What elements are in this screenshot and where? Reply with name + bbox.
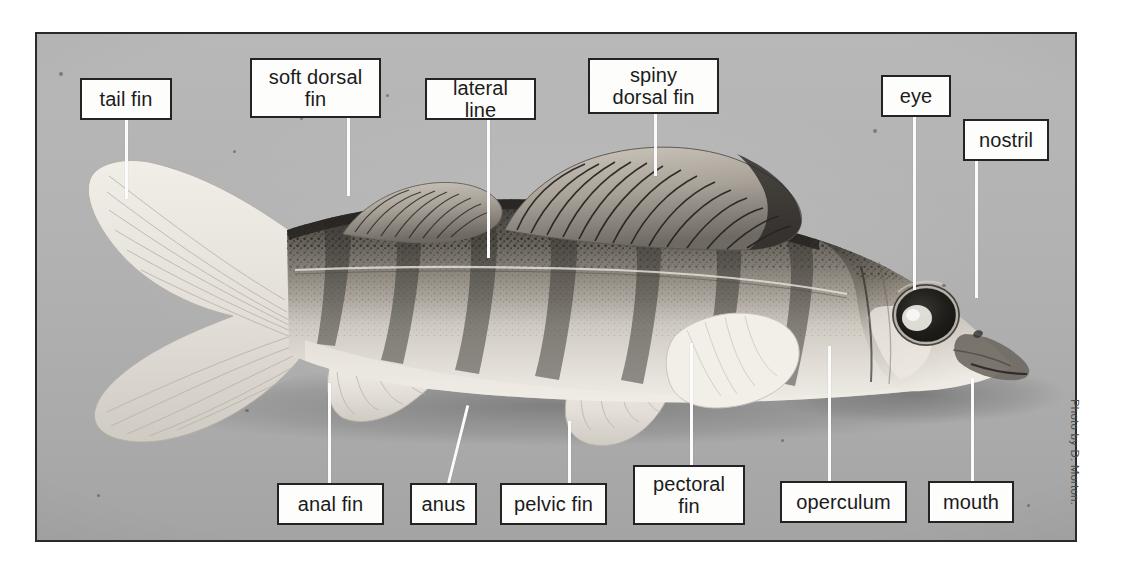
label-tail-fin: tail fin	[80, 78, 172, 120]
fish-anatomy-figure: tail finsoft dorsal finlateral linespiny…	[0, 0, 1128, 565]
label-text: anal fin	[298, 493, 363, 515]
leader-line-operculum	[828, 346, 831, 481]
photo-credit: Photo by D. Morton.	[1069, 399, 1081, 505]
leader-line-pelvic-fin	[568, 421, 571, 483]
label-text: pelvic fin	[514, 493, 593, 515]
label-operculum: operculum	[780, 481, 907, 523]
leader-line-nostril	[975, 161, 978, 298]
leader-line-spiny-dorsal-fin	[654, 114, 657, 176]
label-pectoral-fin: pectoral fin	[633, 465, 745, 525]
label-nostril: nostril	[963, 119, 1049, 161]
leader-line-eye	[913, 117, 916, 290]
label-text: anus	[422, 493, 466, 515]
label-text: soft dorsal fin	[269, 66, 362, 111]
leader-line-lateral-line	[487, 120, 490, 258]
soft-dorsal-fin	[343, 182, 502, 242]
label-eye: eye	[881, 75, 951, 117]
label-text: spiny dorsal fin	[612, 64, 694, 109]
label-text: nostril	[979, 129, 1033, 151]
leader-line-mouth	[971, 378, 974, 481]
label-text: mouth	[943, 491, 999, 513]
label-text: lateral line	[435, 77, 526, 122]
label-pelvic-fin: pelvic fin	[500, 483, 607, 525]
leader-line-anal-fin	[328, 383, 331, 483]
label-mouth: mouth	[928, 481, 1014, 523]
label-anal-fin: anal fin	[277, 483, 384, 525]
label-text: pectoral fin	[653, 473, 725, 518]
label-text: eye	[900, 85, 933, 107]
label-lateral-line: lateral line	[425, 78, 536, 120]
label-spiny-dorsal-fin: spiny dorsal fin	[588, 58, 719, 114]
leader-line-tail-fin	[125, 120, 128, 199]
leader-line-soft-dorsal-fin	[347, 118, 350, 196]
label-text: operculum	[796, 491, 890, 513]
label-soft-dorsal-fin: soft dorsal fin	[250, 58, 381, 118]
label-anus: anus	[410, 483, 477, 525]
leader-line-pectoral-fin	[690, 343, 693, 465]
label-text: tail fin	[99, 88, 152, 110]
